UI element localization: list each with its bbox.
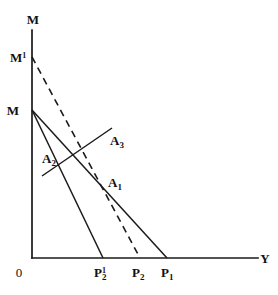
m-axis-label: M [27, 12, 39, 27]
a3-label: A3 [110, 133, 124, 150]
a3-sub: 3 [119, 140, 124, 150]
m-lower-label: M [7, 103, 19, 118]
p2-sub: 2 [140, 272, 145, 282]
p2-label: P2 [132, 265, 145, 282]
m-prime-base: M [10, 50, 22, 65]
budget-line-m-p1 [32, 110, 167, 258]
p1-sub: 1 [169, 272, 174, 282]
a2-label: A2 [42, 151, 56, 168]
y-axis-label: Y [260, 251, 270, 266]
a2-sub: 2 [51, 158, 56, 168]
m-prime-sup: 1 [22, 51, 26, 60]
p2prime-sub: 2 [102, 272, 107, 282]
budget-line-m-p2prime [32, 110, 103, 258]
p1-base: P [161, 265, 169, 280]
budget-line-diagram: M Y 0 M1 M A3 A2 A1 P12 P2 P1 [0, 0, 278, 295]
p2prime-base: P [94, 265, 102, 280]
a1-sub: 1 [117, 182, 122, 192]
a1-label: A1 [108, 175, 122, 192]
p2prime-label: P12 [94, 265, 107, 282]
p1-label: P1 [161, 265, 174, 282]
m-prime-label: M1 [10, 50, 26, 65]
figure-svg: M Y 0 M1 M A3 A2 A1 P12 P2 P1 [0, 0, 278, 295]
origin-label: 0 [16, 265, 23, 280]
p2-base: P [132, 265, 140, 280]
